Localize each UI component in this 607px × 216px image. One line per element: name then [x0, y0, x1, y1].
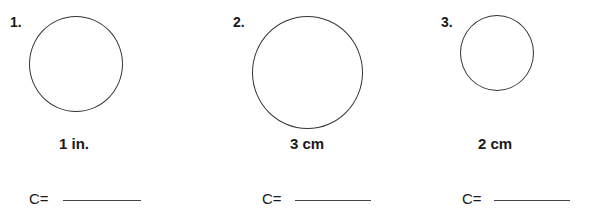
circumference-answer-input[interactable]: [63, 184, 141, 201]
problem-number: 2.: [233, 14, 245, 30]
circle-diagram: [29, 16, 123, 112]
circumference-label: C=: [462, 190, 482, 207]
problem-number: 3.: [441, 14, 453, 30]
circumference-answer-input[interactable]: [295, 184, 371, 201]
measurement-label: 3 cm: [290, 135, 324, 152]
circumference-label: C=: [29, 190, 49, 207]
problem-1: 1. 1 in. C=: [0, 0, 200, 216]
circumference-answer-input[interactable]: [494, 184, 570, 201]
measurement-label: 1 in.: [59, 135, 89, 152]
circle-diagram: [252, 16, 363, 129]
measurement-label: 2 cm: [478, 135, 512, 152]
circumference-label: C=: [262, 190, 282, 207]
problem-number: 1.: [10, 14, 22, 30]
circle-diagram: [460, 15, 534, 91]
